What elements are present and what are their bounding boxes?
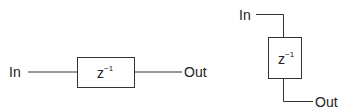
z-exponent: −1 (285, 50, 295, 59)
input-label: In (9, 64, 21, 80)
output-wire (284, 78, 314, 102)
z-base: z (278, 51, 285, 67)
vertical-delay-diagram: In z−1 Out (239, 7, 338, 110)
unit-delay-diagrams: In z−1 Out In z−1 Out (0, 0, 354, 112)
z-base: z (97, 65, 104, 81)
output-label: Out (184, 64, 207, 80)
input-wire (256, 15, 284, 38)
horizontal-delay-diagram: In z−1 Out (9, 58, 207, 88)
z-exponent: −1 (104, 64, 114, 73)
input-label: In (239, 7, 251, 23)
output-label: Out (315, 94, 338, 110)
